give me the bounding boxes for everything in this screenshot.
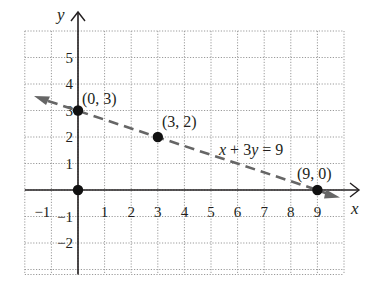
data-point [73,185,83,195]
point-label: (0, 3) [82,90,117,108]
plotted-points [73,105,323,195]
point-label: (3, 2) [162,113,197,131]
y-tick-label: 2 [66,129,74,145]
point-label: (9, 0) [297,165,332,183]
x-tick-label: 5 [207,204,215,220]
right-arrow-icon [324,190,340,199]
x-tick-label: 2 [127,204,135,220]
x-tick-label: 8 [287,204,295,220]
x-tick-label: 4 [181,204,189,220]
y-tick-label: 5 [66,50,74,66]
data-point [153,132,163,142]
y-tick-label: −2 [57,235,73,251]
x-axis-label: x [350,199,359,218]
coordinate-plane: xy −112345678954321−1−2 x + 3y = 9 (0, 3… [0,0,384,292]
y-tick-label: 3 [66,103,74,119]
data-point [312,185,322,195]
y-tick-label: 1 [66,156,74,172]
x-tick-label: 3 [154,204,162,220]
y-axis-label: y [55,5,65,24]
x-tick-label: −1 [34,204,50,220]
left-arrow-icon [34,96,50,105]
equation-label: x + 3y = 9 [218,141,283,159]
x-tick-label: 6 [234,204,242,220]
x-tick-label: 9 [314,204,322,220]
x-tick-label: 1 [101,204,109,220]
x-tick-label: 7 [260,204,268,220]
y-tick-label: 4 [66,76,74,92]
axes: xy [25,5,359,275]
y-tick-label: −1 [57,209,73,225]
